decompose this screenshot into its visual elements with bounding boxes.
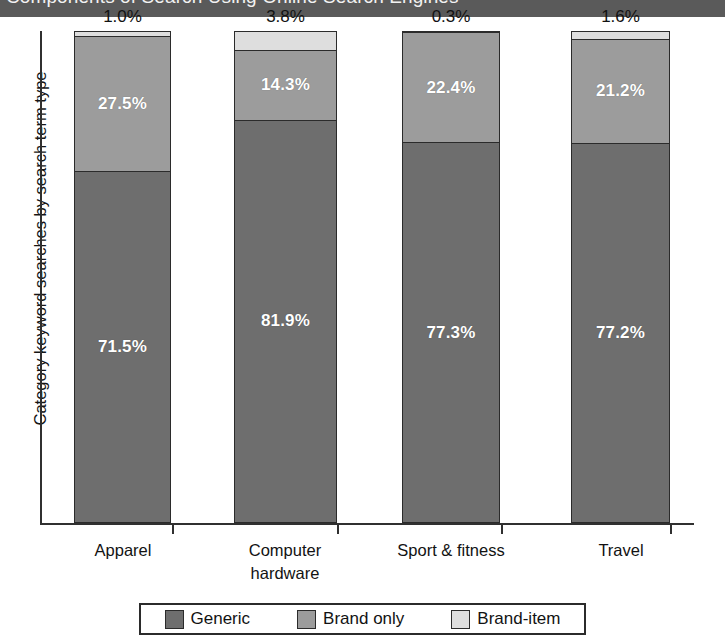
bar-group: 1.0%1.0%27.5%71.5% bbox=[74, 31, 171, 523]
x-axis-category-label: Travel bbox=[531, 539, 711, 562]
stacked-bar[interactable]: 1.6%1.6%21.2%77.2% bbox=[571, 31, 670, 523]
chart-title: Components of Search Using Online Search… bbox=[6, 0, 459, 8]
segment-value-label: 27.5% bbox=[98, 94, 147, 114]
legend-swatch-icon bbox=[451, 610, 470, 629]
x-axis-tick bbox=[501, 525, 503, 534]
bar-segment-brand-only[interactable]: 14.3% bbox=[235, 51, 336, 121]
segment-value-label: 21.2% bbox=[596, 81, 645, 101]
bar-top-value-label: 1.0% bbox=[75, 7, 170, 27]
stacked-bar[interactable]: 0.3%0.3%22.4%77.3% bbox=[402, 31, 500, 523]
bar-top-value-label: 3.8% bbox=[235, 7, 336, 27]
bar-segment-brand-item[interactable]: 1.6% bbox=[572, 32, 669, 40]
category-label-line: Apparel bbox=[33, 539, 213, 562]
x-axis-category-label: Sport & fitness bbox=[361, 539, 541, 562]
bar-segment-generic[interactable]: 81.9% bbox=[235, 121, 336, 522]
bar-segment-generic[interactable]: 71.5% bbox=[75, 172, 170, 522]
legend-label: Brand only bbox=[323, 609, 404, 629]
bar-group: 3.8%3.8%14.3%81.9% bbox=[234, 31, 337, 523]
legend-swatch-icon bbox=[165, 610, 184, 629]
x-axis-tick bbox=[670, 525, 672, 534]
category-label-line: Travel bbox=[531, 539, 711, 562]
segment-value-label: 77.2% bbox=[596, 323, 645, 343]
x-axis-category-label: Computerhardware bbox=[195, 539, 375, 586]
category-label-line: Sport & fitness bbox=[361, 539, 541, 562]
plot-area: 1.0%1.0%27.5%71.5%3.8%3.8%14.3%81.9%0.3%… bbox=[40, 31, 694, 523]
legend-item[interactable]: Generic bbox=[165, 609, 251, 629]
bar-top-value-label: 0.3% bbox=[403, 7, 499, 27]
legend-item[interactable]: Brand-item bbox=[451, 609, 560, 629]
bar-segment-brand-only[interactable]: 27.5% bbox=[75, 37, 170, 172]
x-axis-category-label: Apparel bbox=[33, 539, 213, 562]
segment-value-label: 81.9% bbox=[261, 311, 310, 331]
bar-segment-brand-only[interactable]: 21.2% bbox=[572, 40, 669, 144]
segment-value-label: 14.3% bbox=[261, 75, 310, 95]
x-axis-line bbox=[40, 523, 694, 525]
bar-group: 0.3%0.3%22.4%77.3% bbox=[402, 31, 500, 523]
legend-swatch-icon bbox=[297, 610, 316, 629]
segment-value-label: 22.4% bbox=[426, 78, 475, 98]
stacked-bar[interactable]: 1.0%1.0%27.5%71.5% bbox=[74, 31, 171, 523]
category-label-line: Computer bbox=[195, 539, 375, 562]
stacked-bar[interactable]: 3.8%3.8%14.3%81.9% bbox=[234, 31, 337, 523]
chart-canvas: Category keyword searches by search term… bbox=[0, 17, 725, 592]
bar-segment-generic[interactable]: 77.3% bbox=[403, 143, 499, 522]
bar-group: 1.6%1.6%21.2%77.2% bbox=[571, 31, 670, 523]
bar-segment-brand-item[interactable]: 3.8% bbox=[235, 32, 336, 51]
bar-segment-generic[interactable]: 77.2% bbox=[572, 144, 669, 522]
legend-label: Generic bbox=[191, 609, 251, 629]
bar-top-value-label: 1.6% bbox=[572, 7, 669, 27]
legend-item[interactable]: Brand only bbox=[297, 609, 404, 629]
bar-segment-brand-only[interactable]: 22.4% bbox=[403, 33, 499, 143]
x-axis-tick bbox=[172, 525, 174, 534]
x-axis-tick bbox=[337, 525, 339, 534]
segment-value-label: 71.5% bbox=[98, 337, 147, 357]
legend-label: Brand-item bbox=[477, 609, 560, 629]
chart-legend: GenericBrand onlyBrand-item bbox=[139, 603, 586, 635]
category-label-line: hardware bbox=[195, 562, 375, 585]
segment-value-label: 77.3% bbox=[426, 323, 475, 343]
